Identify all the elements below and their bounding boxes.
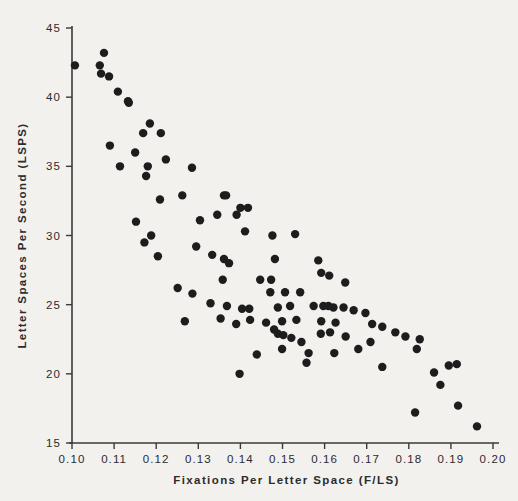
- x-tick-label-0.15: 0.15: [269, 453, 296, 465]
- data-point: [411, 408, 419, 416]
- data-point: [453, 360, 461, 368]
- scatter-plot-canvas: 152025303540450.100.110.120.130.140.150.…: [0, 0, 518, 501]
- y-tick-label-20: 20: [46, 368, 61, 380]
- data-point: [292, 316, 300, 324]
- data-point: [314, 256, 322, 264]
- data-point: [287, 334, 295, 342]
- data-point: [445, 361, 453, 369]
- data-point: [413, 345, 421, 353]
- data-point: [100, 49, 108, 57]
- data-point: [341, 332, 349, 340]
- data-point: [309, 302, 317, 310]
- data-point: [366, 338, 374, 346]
- data-point: [281, 288, 289, 296]
- data-point: [219, 276, 227, 284]
- data-point: [361, 309, 369, 317]
- data-point: [291, 230, 299, 238]
- data-point: [378, 323, 386, 331]
- data-point: [317, 317, 325, 325]
- data-point: [268, 231, 276, 239]
- scatter-plot-figure: 152025303540450.100.110.120.130.140.150.…: [0, 0, 518, 501]
- y-tick-label-40: 40: [46, 91, 61, 103]
- data-point: [97, 69, 105, 77]
- y-tick-label-15: 15: [46, 437, 61, 449]
- data-point: [341, 278, 349, 286]
- data-point: [339, 303, 347, 311]
- data-point: [125, 99, 133, 107]
- data-point: [223, 302, 231, 310]
- data-point: [131, 148, 139, 156]
- x-axis-title: Fixations Per Letter Space (F/LS): [173, 474, 399, 486]
- data-point: [317, 269, 325, 277]
- x-tick-label-0.19: 0.19: [438, 453, 465, 465]
- data-point: [181, 317, 189, 325]
- data-point: [140, 238, 148, 246]
- x-tick-label-0.14: 0.14: [227, 453, 254, 465]
- data-point: [416, 335, 424, 343]
- data-point: [278, 317, 286, 325]
- y-tick-label-35: 35: [46, 160, 61, 172]
- data-point: [246, 316, 254, 324]
- data-point: [271, 255, 279, 263]
- data-point: [473, 422, 481, 430]
- data-point: [266, 288, 274, 296]
- data-point: [326, 328, 334, 336]
- data-point: [206, 299, 214, 307]
- data-point: [274, 303, 282, 311]
- data-point: [216, 314, 224, 322]
- data-point: [349, 306, 357, 314]
- data-point: [147, 231, 155, 239]
- data-point: [235, 370, 243, 378]
- data-point: [330, 349, 338, 357]
- data-point: [244, 204, 252, 212]
- data-point: [96, 61, 104, 69]
- data-point: [329, 303, 337, 311]
- x-tick-label-0.10: 0.10: [59, 453, 86, 465]
- x-tick-label-0.17: 0.17: [353, 453, 380, 465]
- x-tick-label-0.12: 0.12: [143, 453, 170, 465]
- y-tick-label-45: 45: [46, 22, 61, 34]
- data-point: [325, 271, 333, 279]
- data-point: [154, 252, 162, 260]
- data-point: [146, 119, 154, 127]
- data-point: [241, 227, 249, 235]
- x-tick-label-0.11: 0.11: [101, 453, 127, 465]
- data-point: [317, 330, 325, 338]
- data-point: [213, 211, 221, 219]
- x-tick-label-0.13: 0.13: [185, 453, 212, 465]
- data-point: [302, 359, 310, 367]
- data-point: [279, 331, 287, 339]
- data-point: [238, 305, 246, 313]
- data-point: [378, 363, 386, 371]
- data-point: [106, 141, 114, 149]
- data-point: [278, 345, 286, 353]
- data-point: [114, 87, 122, 95]
- y-tick-label-30: 30: [46, 230, 61, 242]
- data-point: [245, 305, 253, 313]
- x-tick-label-0.20: 0.20: [480, 453, 507, 465]
- data-point: [208, 251, 216, 259]
- data-point: [253, 350, 261, 358]
- data-point: [256, 276, 264, 284]
- data-point: [262, 318, 270, 326]
- x-tick-label-0.18: 0.18: [395, 453, 422, 465]
- data-point: [454, 401, 462, 409]
- y-tick-label-25: 25: [46, 299, 61, 311]
- data-point: [232, 320, 240, 328]
- data-point: [188, 289, 196, 297]
- data-point: [267, 276, 275, 284]
- data-point: [139, 129, 147, 137]
- data-point: [157, 129, 165, 137]
- data-point: [71, 61, 79, 69]
- data-point: [391, 328, 399, 336]
- data-point: [178, 191, 186, 199]
- data-point: [162, 155, 170, 163]
- data-point: [105, 72, 113, 80]
- data-point: [132, 217, 140, 225]
- data-point: [225, 259, 233, 267]
- data-point: [296, 288, 304, 296]
- data-point: [196, 216, 204, 224]
- data-point: [436, 381, 444, 389]
- data-point: [156, 195, 164, 203]
- data-point: [401, 332, 409, 340]
